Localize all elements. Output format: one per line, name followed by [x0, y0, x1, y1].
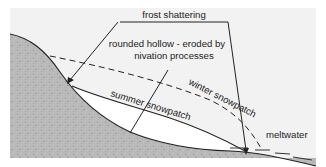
rounded-hollow-label-line2: nivation processes	[134, 50, 214, 61]
rounded-hollow-label-line1: rounded hollow - eroded by	[109, 38, 225, 49]
frost-shattering-label: frost shattering	[142, 9, 205, 20]
nivation-diagram: frost shattering rounded hollow - eroded…	[0, 0, 326, 167]
meltwater-label: meltwater	[266, 129, 308, 140]
